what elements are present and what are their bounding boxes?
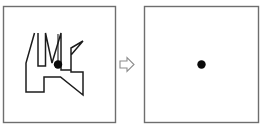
right-arrow-icon	[120, 58, 134, 72]
centroid-dot-result	[197, 60, 205, 68]
figure-canvas	[0, 0, 271, 129]
centroid-dot-source	[54, 60, 62, 68]
figure-root	[0, 0, 271, 129]
